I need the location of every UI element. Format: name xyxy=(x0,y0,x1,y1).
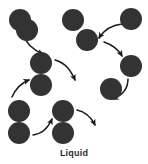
motion-arrow xyxy=(12,80,29,97)
particle-circle xyxy=(62,9,84,31)
particle-circle xyxy=(76,29,98,51)
particle-circle xyxy=(52,122,74,144)
liquid-particle-diagram: Liquid xyxy=(0,0,148,164)
state-label: Liquid xyxy=(0,148,148,159)
particle-circle xyxy=(52,100,74,122)
particle-circle xyxy=(120,8,142,30)
motion-arrow xyxy=(99,24,122,38)
motion-arrow xyxy=(55,60,75,80)
particle-circle xyxy=(8,122,30,144)
particle-circle xyxy=(120,55,142,77)
particle-circle xyxy=(30,74,52,96)
particle-canvas xyxy=(0,0,148,164)
particle-circle xyxy=(16,19,38,41)
motion-arrow xyxy=(33,119,52,135)
particle-layer xyxy=(8,8,142,144)
motion-arrow xyxy=(104,42,122,56)
motion-arrow xyxy=(77,110,95,125)
particle-circle xyxy=(30,52,52,74)
particle-circle xyxy=(100,78,122,100)
particle-circle xyxy=(8,100,30,122)
